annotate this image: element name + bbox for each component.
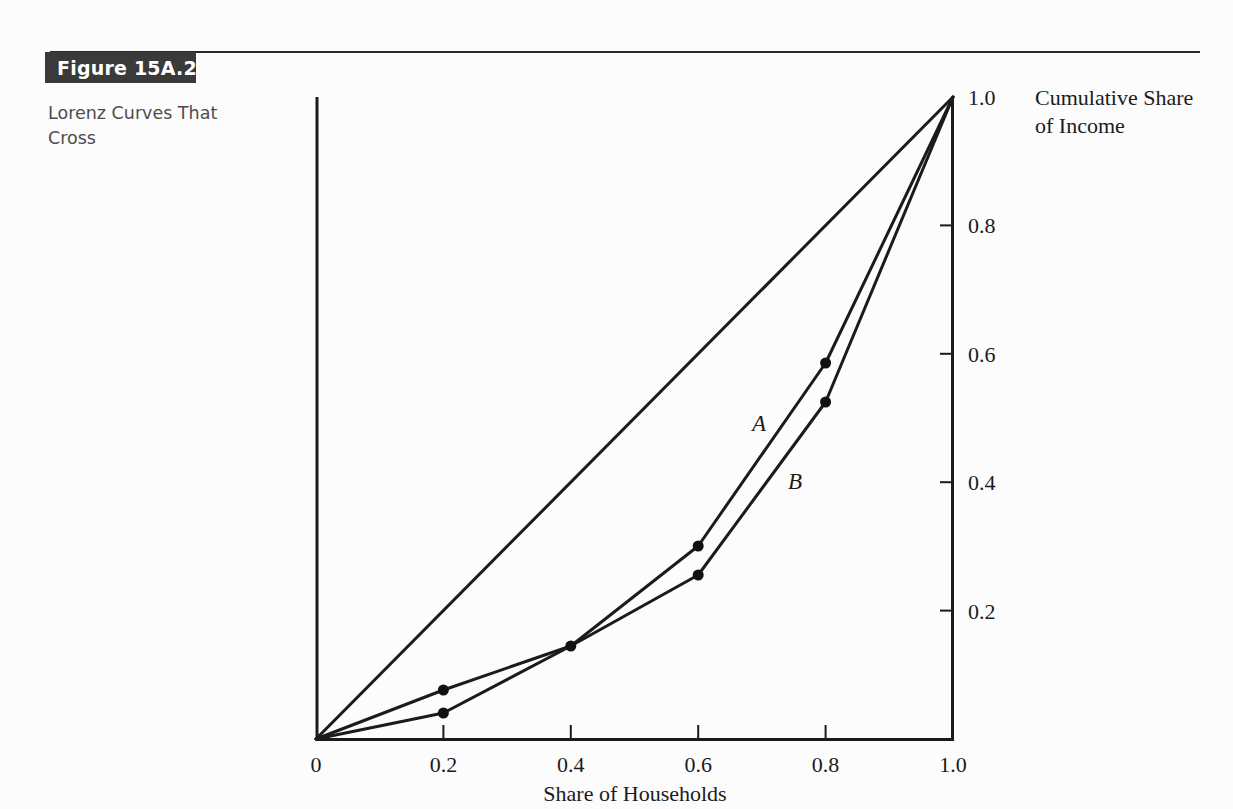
x-tick-label-0.6: 0.6 [684,752,712,777]
marker-a-0.2 [438,685,449,696]
marker-crossing-0.4 [565,641,576,652]
marker-a-0.6 [693,541,704,552]
y-tick-labels: 0.2 0.4 0.6 0.8 1.0 [968,85,996,624]
marker-b-0.6 [693,570,704,581]
y-tick-label-0.8: 0.8 [968,213,996,238]
y-tick-label-0.2: 0.2 [968,599,996,624]
x-tick-label-0.2: 0.2 [430,752,458,777]
x-tick-labels: 0 0.2 0.4 0.6 0.8 1.0 [311,752,967,777]
marker-a-0.8 [820,358,831,369]
lorenz-curve-chart: 0 0.2 0.4 0.6 0.8 1.0 0.2 0.4 0.6 0.8 1.… [0,0,1233,809]
marker-b-0.8 [820,397,831,408]
curve-label-b: B [788,469,802,494]
x-axis-title: Share of Households [543,781,726,806]
equality-line [316,97,953,739]
marker-b-0.2 [438,708,449,719]
curve-label-a: A [750,411,767,436]
y-axis-title-line2: of Income [1035,113,1125,138]
y-tick-label-1.0: 1.0 [968,85,996,110]
axis-titles: Cumulative Share of Income Share of Hous… [543,85,1193,806]
y-tick-label-0.6: 0.6 [968,342,996,367]
x-tick-label-0.8: 0.8 [812,752,840,777]
x-tick-label-0.4: 0.4 [557,752,585,777]
x-axis-ticks [443,725,825,739]
x-tick-label-0: 0 [311,752,322,777]
y-axis-ticks [940,225,952,610]
x-tick-label-1.0: 1.0 [939,752,967,777]
y-axis-title-line1: Cumulative Share [1035,85,1193,110]
y-tick-label-0.4: 0.4 [968,470,996,495]
data-point-markers [438,358,831,719]
